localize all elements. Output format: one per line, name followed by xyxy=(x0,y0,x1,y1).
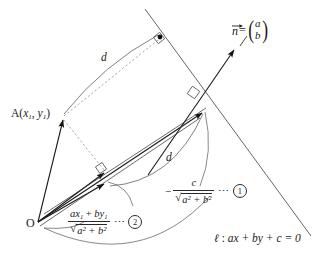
line-equation-body: ax + by + c = 0 xyxy=(228,232,301,244)
point-a-label: A(x1, y1) xyxy=(11,108,50,121)
diagram-canvas xyxy=(0,0,332,266)
arc-distance-lower xyxy=(110,114,203,186)
vector-o-to-projection-outer xyxy=(38,113,202,222)
point-a-close-paren: ) xyxy=(46,107,50,119)
left-paren: ( xyxy=(248,20,254,40)
normal-vector-components: ( a b ) xyxy=(247,18,269,41)
formula-two-radicand: a² + b² xyxy=(76,224,107,237)
line-colon: : xyxy=(219,232,228,244)
formula-two-numerator: ax1 + by1 xyxy=(68,208,110,221)
arc-distance-upper xyxy=(64,35,158,114)
normal-component-b: b xyxy=(255,30,261,42)
normal-vector-symbol: n xyxy=(232,22,238,37)
line-equation-label: ℓ : ax + by + c = 0 xyxy=(214,233,301,245)
distance-label-lower: d xyxy=(166,152,172,164)
leader-to-formula-one xyxy=(200,112,209,186)
formula-one: − c √ a² + b² ⋯ 1 xyxy=(165,177,247,206)
formula-two-fraction: ax1 + by1 √ a² + b² xyxy=(68,208,110,237)
formula-one-denominator: √ a² + b² xyxy=(173,190,214,206)
formula-two-x-sub: 1 xyxy=(80,213,83,220)
normal-component-a: a xyxy=(255,18,261,30)
formula-one-tag: 1 xyxy=(233,184,247,198)
distance-label-upper: d xyxy=(101,52,107,64)
formula-one-dots: ⋯ xyxy=(218,185,230,197)
formula-two-tag: 2 xyxy=(128,215,142,229)
right-angle-marker-inner xyxy=(95,162,106,173)
formula-two-y-sub: 1 xyxy=(104,213,107,220)
normal-vector-label: n = ( a b ) xyxy=(232,18,269,41)
formula-one-fraction: c √ a² + b² xyxy=(173,177,214,206)
right-angle-marker-middle xyxy=(187,86,200,99)
geometry-figure: A(x1, y1) O n = ( a b ) d d − c xyxy=(0,0,332,266)
formula-two-dots: ⋯ xyxy=(114,216,126,228)
dashed-a-to-inner-projection xyxy=(64,120,104,170)
formula-two-plus: + xyxy=(86,208,92,219)
formula-one-radicand: a² + b² xyxy=(181,193,212,206)
origin-label: O xyxy=(26,217,35,229)
formula-one-numerator: c xyxy=(189,177,198,190)
formula-one-sign: − xyxy=(165,185,171,197)
right-paren: ) xyxy=(262,20,268,40)
formula-two: ax1 + by1 √ a² + b² ⋯ 2 xyxy=(68,208,142,237)
formula-two-denominator: √ a² + b² xyxy=(68,221,110,237)
dashed-perpendicular-a-to-line xyxy=(64,40,158,116)
vector-arrow-icon xyxy=(232,22,243,28)
